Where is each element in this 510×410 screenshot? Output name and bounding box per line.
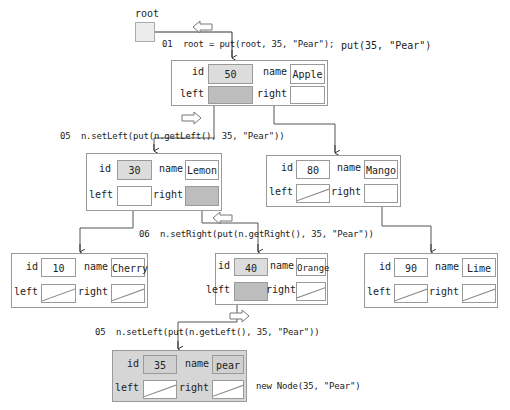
left-null-field [296,184,330,203]
line-code: n.setRight(put(n.getRight(), 35, "Pear")… [160,229,374,239]
name-label: name [78,261,108,272]
id-label: id [14,261,38,272]
name-label: name [256,66,287,77]
node-40: id 40 name Orange left right [215,253,328,305]
root-variable-box [135,22,155,42]
return-arrow-left [193,21,212,33]
right-label: right [329,186,361,197]
name-field: Cherry [111,258,145,277]
code-line-01: 01 root = put(root, 35, "Pear"); [162,39,334,49]
name-label: name [429,261,459,272]
id-label: id [89,163,111,174]
right-label: right [76,286,108,297]
left-null-field [41,284,76,303]
node-50: id 50 name Apple left right [171,60,328,106]
right-pointer-field [185,186,219,206]
right-label: right [256,88,287,99]
id-label: id [367,261,391,272]
right-label: right [266,284,294,295]
name-field: Mango [364,160,398,179]
left-label: left [172,88,204,99]
left-label: left [111,382,139,393]
line-number: 06 [139,229,149,239]
root-label: root [135,8,159,19]
id-field: 80 [296,160,330,179]
code-line-06: 06 n.setRight(put(n.getRight(), 35, "Pea… [139,229,374,239]
line-code: root = put(root, 35, "Pear"); [183,39,334,49]
name-label: name [331,162,361,173]
node-10: id 10 name Cherry left right [11,253,148,308]
name-field: Apple [290,64,325,84]
right-pointer-field [290,86,325,104]
name-label: name [153,163,183,174]
left-null-field [394,284,428,303]
id-label: id [216,260,230,271]
name-field: Lemon [185,160,219,180]
left-label: left [363,286,391,297]
left-pointer-field [117,186,152,206]
id-field: 90 [394,258,428,277]
code-line-05: 05 n.setLeft(put(n.getLeft(), 35, "Pear"… [60,131,284,141]
id-label: id [174,66,204,77]
left-label: left [85,189,113,200]
line-number: 05 [60,131,70,141]
id-field: 40 [234,258,268,276]
right-null-field [462,284,496,303]
node-35-new: id 35 name pear left right [112,350,247,402]
name-label: name [179,358,209,369]
right-label: right [427,286,459,297]
call-title: put(35, "Pear") [341,40,431,51]
left-label: left [200,284,230,295]
right-label: right [177,382,209,393]
name-label: name [268,260,294,271]
line-code: n.setLeft(put(n.getLeft(), 35, "Pear")) [116,327,320,337]
line-code: n.setLeft(put(n.getLeft(), 35, "Pear")) [81,131,285,141]
name-field: Orange [296,258,326,276]
id-label: id [115,358,139,369]
id-label: id [269,162,293,173]
line-number: 01 [162,39,172,49]
name-field: pear [212,355,244,374]
code-line-05-second: 05 n.setLeft(put(n.getLeft(), 35, "Pear"… [95,327,319,337]
name-field: Lime [462,258,496,277]
node-90: id 90 name Lime left right [364,253,498,308]
right-null-field [296,282,326,301]
left-label: left [10,286,38,297]
left-pointer-field [234,282,268,301]
call-arrow-right [182,112,201,124]
node-80: id 80 name Mango left right [266,155,401,207]
right-null-field [212,380,244,399]
id-field: 50 [208,64,253,84]
left-pointer-field [208,86,253,104]
return-arrow-left-2 [213,212,232,224]
id-field: 30 [117,160,152,180]
new-node-caption: new Node(35, "Pear") [256,381,360,391]
right-label: right [153,189,183,200]
call-arrow-right-2 [230,310,249,322]
right-pointer-field [364,184,398,203]
left-label: left [265,186,293,197]
line-number: 05 [95,327,105,337]
id-field: 35 [143,355,177,374]
left-null-field [143,380,177,399]
right-null-field [111,284,145,303]
id-field: 10 [41,258,76,277]
node-30: id 30 name Lemon left right [86,153,222,211]
